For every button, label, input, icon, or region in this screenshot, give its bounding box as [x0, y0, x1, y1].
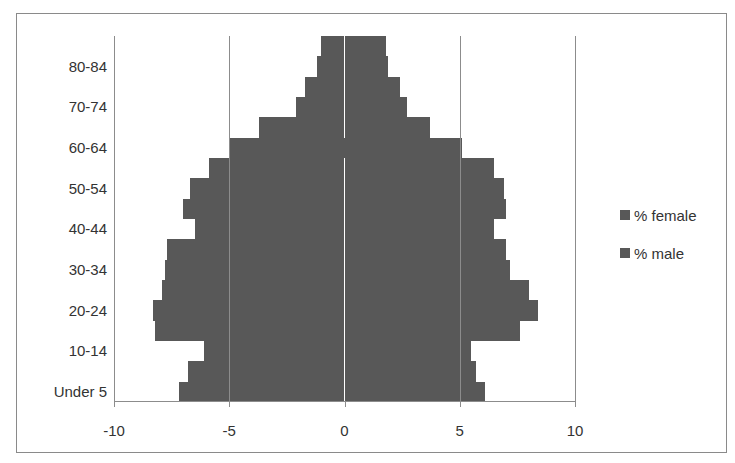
x-tick-label: -5: [209, 422, 249, 439]
x-tick-label: 0: [325, 422, 365, 439]
x-tick-label: 5: [440, 422, 480, 439]
bar-male: [345, 138, 463, 159]
bar-female: [296, 97, 344, 118]
bar-male: [345, 97, 407, 118]
y-tick-label: 60-64: [17, 139, 107, 157]
x-tick-label: -10: [94, 422, 134, 439]
bar-female: [317, 56, 345, 77]
gridline: [114, 36, 115, 402]
x-tick: [575, 402, 576, 407]
bar-male: [345, 321, 520, 342]
bar-female: [179, 382, 345, 403]
bar-female: [204, 341, 345, 362]
legend-label-male: % male: [634, 245, 684, 262]
y-tick-label: Under 5: [17, 383, 107, 401]
legend: % female % male: [620, 205, 697, 281]
bar-female: [321, 36, 344, 57]
bar-female: [188, 361, 345, 382]
x-tick: [229, 402, 230, 407]
bar-male: [345, 260, 511, 281]
bar-male: [345, 158, 495, 179]
bar-male: [345, 199, 506, 220]
bar-female: [229, 138, 344, 159]
gridline: [460, 36, 461, 402]
bar-male: [345, 219, 495, 240]
bar-female: [190, 178, 344, 199]
bar-male: [345, 239, 506, 260]
bar-male: [345, 117, 430, 138]
bar-male: [345, 341, 472, 362]
y-tick-label: 10-14: [17, 342, 107, 360]
y-tick-label: 50-54: [17, 180, 107, 198]
bar-female: [165, 260, 345, 281]
y-tick-label: 20-24: [17, 302, 107, 320]
bar-male: [345, 382, 486, 403]
y-tick-label: 40-44: [17, 220, 107, 238]
x-tick: [114, 402, 115, 407]
plot-area: [114, 36, 575, 402]
bar-male: [345, 36, 386, 57]
bar-female: [153, 300, 344, 321]
bar-female: [195, 219, 345, 240]
legend-item-male: % male: [620, 243, 697, 263]
bar-female: [162, 280, 344, 301]
legend-swatch-male: [620, 248, 630, 258]
x-tick: [345, 402, 346, 407]
y-tick-label: 30-34: [17, 261, 107, 279]
bar-female: [259, 117, 344, 138]
bar-female: [155, 321, 344, 342]
legend-label-female: % female: [634, 207, 697, 224]
bar-female: [183, 199, 344, 220]
bar-male: [345, 361, 476, 382]
y-tick-label: 70-74: [17, 98, 107, 116]
y-tick-label: 80-84: [17, 58, 107, 76]
x-tick-label: 10: [555, 422, 595, 439]
bar-male: [345, 280, 529, 301]
gridline: [575, 36, 576, 402]
bar-female: [167, 239, 344, 260]
bar-male: [345, 56, 389, 77]
bar-male: [345, 300, 539, 321]
x-tick: [460, 402, 461, 407]
bar-female: [305, 77, 344, 98]
legend-swatch-female: [620, 210, 630, 220]
gridline: [229, 36, 230, 402]
bar-male: [345, 178, 504, 199]
legend-item-female: % female: [620, 205, 697, 225]
bar-male: [345, 77, 400, 98]
